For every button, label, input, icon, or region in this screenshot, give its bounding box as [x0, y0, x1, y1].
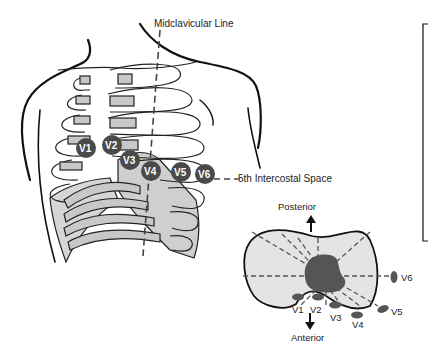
electrode-v6: V6 [195, 164, 215, 184]
electrode-v2: V2 [102, 135, 122, 155]
posterior-arrow-icon [306, 215, 316, 232]
svg-text:V4: V4 [144, 166, 157, 177]
intercostal-label: 5th Intercostal Space [238, 173, 332, 184]
electrode-v5: V5 [171, 162, 191, 182]
anterior-label: Anterior [291, 332, 324, 343]
electrode-v1: V1 [76, 138, 96, 158]
cs-label-v5: V5 [391, 306, 403, 317]
svg-text:V1: V1 [79, 143, 92, 154]
cs-label-v6: V6 [401, 272, 413, 283]
cs-label-v4: V4 [352, 319, 364, 330]
svg-text:V6: V6 [198, 169, 211, 180]
posterior-label: Posterior [278, 201, 316, 212]
cross-section: Posterior [243, 201, 413, 343]
ecg-lead-placement-diagram: Midclavicular Line 5th Intercostal Space… [0, 0, 428, 354]
midclavicular-label: Midclavicular Line [154, 18, 234, 29]
svg-text:V2: V2 [105, 140, 118, 151]
bracket-frame [423, 24, 428, 241]
cs-label-v1: V1 [292, 304, 304, 315]
electrode-v3: V3 [120, 150, 140, 170]
svg-text:V5: V5 [174, 167, 187, 178]
anterior-arrow-icon [305, 313, 315, 330]
cs-label-v2: V2 [310, 304, 322, 315]
cs-label-v3: V3 [330, 312, 342, 323]
intercostal-line: 5th Intercostal Space [214, 173, 332, 184]
svg-text:V3: V3 [123, 155, 136, 166]
electrode-v4: V4 [141, 161, 161, 181]
